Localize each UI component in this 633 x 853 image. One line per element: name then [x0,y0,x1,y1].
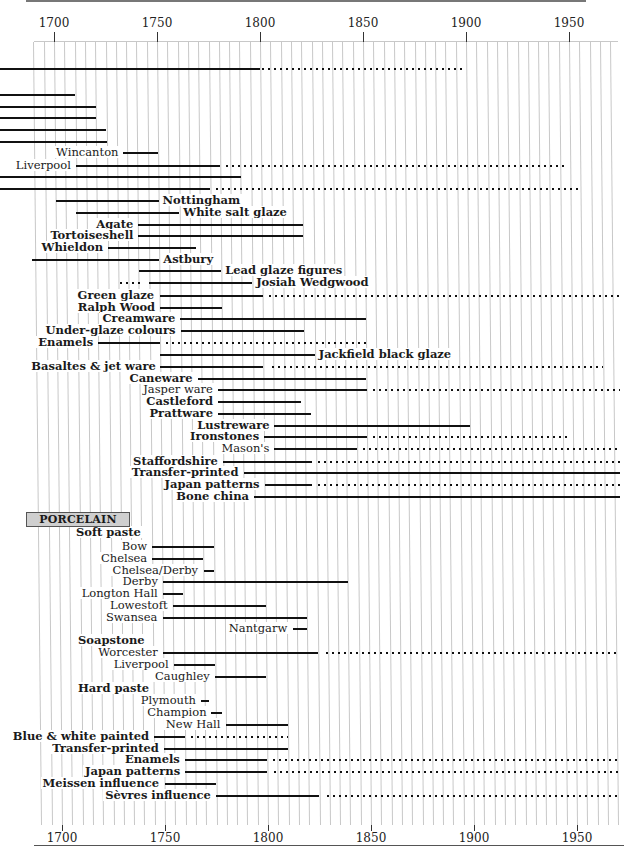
timeline-continuation-dots [371,436,569,438]
timeline-bar [174,664,215,666]
timeline-bar [185,771,267,773]
timeline-bar [274,425,470,427]
timeline-label: Enamels [36,336,95,348]
timeline-bar [264,436,367,438]
grid-line [85,42,94,825]
timeline-continuation-dots [324,652,620,654]
timeline-bar [138,224,303,226]
timeline-bar [265,484,312,486]
section-label-porcelain: PORCELAIN [26,512,130,527]
bottom-rule [34,845,624,846]
grid-line [136,42,145,825]
timeline-bar [204,570,214,572]
timeline-bar [98,342,160,344]
grid-line [126,42,135,825]
timeline-bar [149,282,252,284]
timeline-bar [163,652,318,654]
grid-line [322,42,331,825]
timeline-bar [254,496,620,498]
timeline-bar [0,176,241,178]
timeline-bar [244,472,620,474]
grid-line [270,42,279,825]
timeline-bar [139,270,221,272]
timeline-bar [223,461,312,463]
axis-tick [363,32,364,42]
timeline-bar [163,581,348,583]
timeline-bar [152,558,204,560]
timeline-continuation-dots [118,282,143,284]
axis-label-bottom: 1700 [47,831,78,845]
timeline-bar [216,795,319,797]
grid-line [425,42,434,825]
timeline-bar [32,259,160,261]
axis-label-top: 1900 [451,16,482,30]
timeline-bar [181,330,305,332]
timeline-bar [160,295,263,297]
grid-line [497,42,506,825]
grid-line [569,42,578,825]
timeline-bar [0,106,96,108]
timeline-bar [154,736,185,738]
timeline-continuation-dots [325,795,620,797]
grid-line [507,42,516,825]
timeline-bar [138,235,303,237]
timeline-bar [226,724,288,726]
timeline-bar [163,593,184,595]
timeline-continuation-dots [271,759,620,761]
axis-label-top: 1850 [348,16,379,30]
timeline-bar [0,94,75,96]
grid-line [487,42,496,825]
grid-line [610,42,619,825]
grid-line [518,42,527,825]
axis-label-top: 1700 [39,16,70,30]
axis-label-bottom: 1750 [150,831,181,845]
timeline-bar [0,188,210,190]
timeline-continuation-dots [189,736,288,738]
timeline-bar [180,318,365,320]
grid-line [301,42,310,825]
grid-line [75,42,84,825]
axis-tick [569,32,570,42]
timeline-label: Josiah Wedgwood [254,276,370,288]
timeline-bar [218,401,300,403]
timeline-label: Whieldon [40,241,105,253]
timeline-continuation-dots [270,366,604,368]
timeline-bar [293,628,307,630]
grid-line [528,42,537,825]
timeline-bar [160,307,222,309]
timeline-label: New Hall [164,718,223,730]
grid-line [548,42,557,825]
timeline-bar [274,448,356,450]
grid-top-edge [34,41,618,42]
axis-label-bottom: 1850 [356,831,387,845]
timeline-bar [76,165,220,167]
grid-line [384,42,393,825]
timeline-continuation-dots [164,342,366,344]
timeline-bar [218,389,366,391]
timeline-continuation-dots [316,484,620,486]
axis-tick [54,32,55,42]
timeline-bar [108,247,197,249]
grid-line [106,42,115,825]
grid-line [466,42,475,825]
timeline-bar [160,354,315,356]
timeline-bar [198,378,367,380]
timeline-bar [0,117,96,119]
timeline-label: Astbury [161,253,215,265]
grid-line [260,42,269,825]
timeline-bar [0,129,106,131]
grid-line [291,42,300,825]
grid-line [435,42,444,825]
axis-label-top: 1950 [554,16,585,30]
grid-line [476,42,485,825]
top-rule [26,0,586,2]
timeline-bar [165,783,217,785]
grid-line [590,42,599,825]
grid-line [445,42,454,825]
grid-line [363,42,372,825]
timeline-label: Swansea [104,611,160,623]
timeline-bar [0,68,260,70]
timeline-label: White salt glaze [181,206,289,218]
grid-line [538,42,547,825]
grid-line [394,42,403,825]
